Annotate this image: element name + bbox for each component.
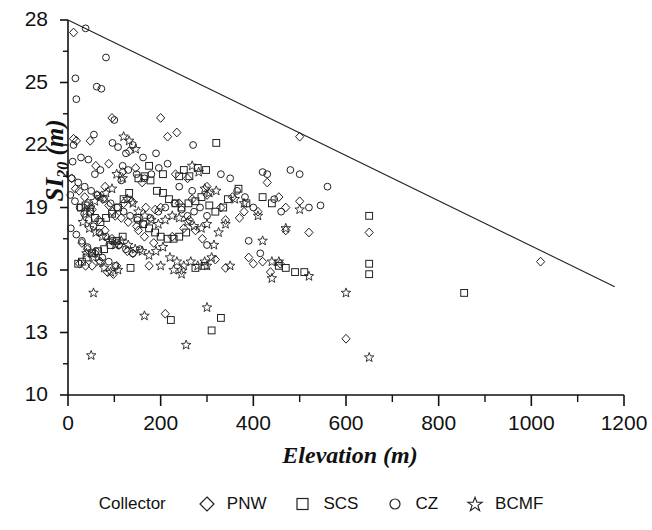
data-point-square bbox=[208, 327, 215, 334]
data-point-circle bbox=[81, 183, 88, 190]
data-point-circle bbox=[164, 160, 171, 167]
data-point-diamond bbox=[342, 334, 350, 343]
data-point-diamond bbox=[105, 159, 113, 168]
data-point-circle bbox=[306, 204, 313, 211]
data-point-star bbox=[113, 265, 123, 274]
data-point-square bbox=[213, 140, 220, 147]
data-point-circle bbox=[72, 198, 79, 205]
data-point-diamond bbox=[266, 268, 274, 277]
data-point-circle bbox=[191, 208, 198, 215]
data-point-square bbox=[160, 171, 167, 178]
data-point-diamond bbox=[305, 228, 313, 237]
data-point-circle bbox=[75, 179, 82, 186]
data-point-circle bbox=[91, 131, 98, 138]
data-point-star bbox=[341, 288, 351, 297]
data-point-diamond bbox=[183, 174, 191, 183]
legend-entry-cz[interactable]: CZ bbox=[384, 494, 438, 514]
legend-entry-scs[interactable]: SCS bbox=[292, 494, 358, 514]
data-point-diamond bbox=[263, 178, 271, 187]
legend-label-pnw: PNW bbox=[227, 494, 267, 514]
data-point-square bbox=[127, 265, 134, 272]
data-point-star bbox=[86, 350, 96, 359]
y-tick-label: 25 bbox=[8, 70, 48, 94]
data-point-circle bbox=[155, 165, 162, 172]
data-point-square bbox=[259, 194, 266, 201]
boundary-line bbox=[68, 20, 615, 287]
data-point-circle bbox=[115, 144, 122, 151]
data-point-circle bbox=[105, 258, 112, 265]
data-point-circle bbox=[227, 175, 234, 182]
data-point-circle bbox=[278, 208, 285, 215]
data-point-square bbox=[461, 290, 468, 297]
y-tick-label: 10 bbox=[8, 382, 48, 406]
y-tick-label: 16 bbox=[8, 257, 48, 281]
star-marker-icon bbox=[464, 495, 486, 513]
data-point-square bbox=[366, 260, 373, 267]
data-point-star bbox=[364, 353, 374, 362]
y-tick-label: 19 bbox=[8, 195, 48, 219]
data-point-diamond bbox=[150, 239, 158, 248]
data-point-star bbox=[212, 186, 222, 195]
data-point-circle bbox=[218, 171, 225, 178]
data-point-diamond bbox=[365, 228, 373, 237]
data-point-square bbox=[366, 271, 373, 278]
data-point-circle bbox=[78, 154, 85, 161]
data-point-circle bbox=[190, 142, 197, 149]
series-pnw bbox=[68, 28, 545, 343]
data-point-diamond bbox=[145, 261, 153, 270]
data-point-diamond bbox=[157, 114, 165, 123]
data-point-star bbox=[144, 250, 154, 259]
data-point-circle bbox=[120, 208, 127, 215]
data-point-star bbox=[304, 271, 314, 280]
y-tick-label: 28 bbox=[8, 7, 48, 31]
y-axis-title-subscript: 20 bbox=[54, 162, 71, 178]
data-point-square bbox=[218, 315, 225, 322]
data-point-star bbox=[202, 303, 212, 312]
legend-label-scs: SCS bbox=[323, 494, 358, 514]
x-tick-label: 200 bbox=[126, 411, 196, 435]
data-point-circle bbox=[287, 167, 294, 174]
data-point-star bbox=[140, 311, 150, 320]
data-point-square bbox=[366, 212, 373, 219]
legend-entry-pnw[interactable]: PNW bbox=[196, 494, 267, 514]
data-point-diamond bbox=[69, 28, 77, 37]
data-point-circle bbox=[189, 187, 196, 194]
data-point-square bbox=[282, 265, 289, 272]
data-point-square bbox=[146, 162, 153, 169]
x-axis-title: Elevation (m) bbox=[200, 442, 500, 469]
data-point-circle bbox=[197, 204, 204, 211]
data-point-star bbox=[225, 261, 235, 270]
x-tick-label: 600 bbox=[311, 411, 381, 435]
data-point-square bbox=[203, 167, 210, 174]
legend-label-bcmf: BCMF bbox=[495, 494, 543, 514]
data-point-diamond bbox=[191, 226, 199, 235]
data-point-circle bbox=[245, 237, 252, 244]
x-tick-label: 0 bbox=[33, 411, 103, 435]
data-point-star bbox=[89, 288, 99, 297]
legend: Collector PNW SCS CZ BCMF bbox=[0, 494, 642, 514]
data-point-circle bbox=[296, 171, 303, 178]
data-point-diamond bbox=[168, 232, 176, 241]
data-point-diamond bbox=[275, 193, 283, 202]
data-point-diamond bbox=[92, 161, 100, 170]
legend-entry-bcmf[interactable]: BCMF bbox=[464, 494, 543, 514]
circle-marker-icon bbox=[384, 495, 406, 513]
data-point-circle bbox=[127, 212, 134, 219]
data-point-star bbox=[154, 219, 164, 228]
data-point-circle bbox=[72, 75, 79, 82]
data-point-circle bbox=[103, 54, 110, 61]
data-point-circle bbox=[176, 183, 183, 190]
data-point-diamond bbox=[140, 232, 148, 241]
data-point-circle bbox=[257, 250, 264, 257]
data-point-circle bbox=[204, 242, 211, 249]
data-point-circle bbox=[85, 156, 92, 163]
data-point-square bbox=[292, 269, 299, 276]
data-point-circle bbox=[324, 183, 331, 190]
x-tick-label: 1000 bbox=[496, 411, 566, 435]
data-point-circle bbox=[88, 187, 95, 194]
x-tick-label: 1200 bbox=[589, 411, 652, 435]
data-point-circle bbox=[73, 96, 80, 103]
data-point-circle bbox=[317, 202, 324, 209]
data-point-circle bbox=[140, 154, 147, 161]
